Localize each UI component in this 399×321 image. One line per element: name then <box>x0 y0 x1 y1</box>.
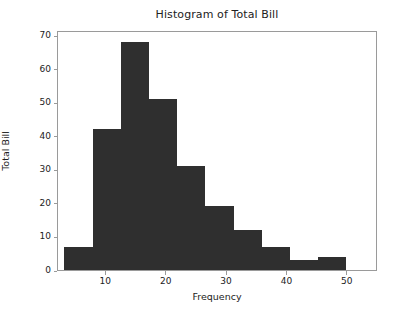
y-tick-label: 10 <box>40 231 51 242</box>
histogram-bar <box>177 166 205 270</box>
y-axis-label: Total Bill <box>0 31 14 271</box>
y-tick-mark <box>54 170 58 171</box>
x-tick-label: 40 <box>274 276 298 287</box>
y-tick-label: 70 <box>40 30 51 41</box>
y-tick-mark <box>54 103 58 104</box>
y-tick-label: 30 <box>40 164 51 175</box>
x-tick-label: 30 <box>214 276 238 287</box>
histogram-bar <box>121 42 149 270</box>
y-tick-mark <box>54 69 58 70</box>
histogram-bar <box>262 247 290 270</box>
histogram-bar <box>205 206 233 270</box>
histogram-bar <box>64 247 92 270</box>
y-tick-label: 60 <box>40 64 51 75</box>
chart-title: Histogram of Total Bill <box>57 8 377 21</box>
histogram-bar <box>93 129 121 270</box>
x-tick-mark <box>165 271 166 275</box>
y-tick-label: 40 <box>40 131 51 142</box>
x-tick-mark <box>226 271 227 275</box>
y-tick-mark <box>54 36 58 37</box>
x-tick-mark <box>286 271 287 275</box>
y-tick-mark <box>54 136 58 137</box>
y-tick-label: 50 <box>40 97 51 108</box>
x-tick-mark <box>346 271 347 275</box>
y-tick-label: 20 <box>40 198 51 209</box>
plot-area <box>57 31 377 271</box>
histogram-bars <box>58 32 376 270</box>
y-tick-mark <box>54 203 58 204</box>
histogram-bar <box>149 99 177 270</box>
y-tick-mark <box>54 237 58 238</box>
histogram-bar <box>234 230 262 270</box>
histogram-bar <box>318 257 346 270</box>
histogram-bar <box>290 260 318 270</box>
x-tick-mark <box>105 271 106 275</box>
histogram-figure: Histogram of Total Bill 010203040506070 … <box>0 0 399 321</box>
x-tick-label: 20 <box>154 276 178 287</box>
x-tick-label: 50 <box>335 276 359 287</box>
x-tick-label: 10 <box>93 276 117 287</box>
x-axis-label: Frequency <box>57 291 377 302</box>
